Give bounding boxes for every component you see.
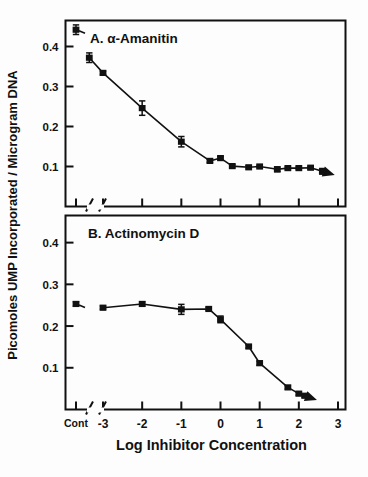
panel-a-data-point [139, 105, 146, 111]
panel-a-series [73, 25, 335, 177]
xtick-label: 3 [335, 417, 342, 431]
dose-response-figure: 0.10.20.30.40.10.20.30.4Cont-3-2-10123Lo… [0, 0, 368, 477]
panel-b-ytick-label: 0.2 [43, 321, 59, 333]
panel-a-data-point [229, 163, 236, 169]
panel-b-data-point [256, 360, 263, 366]
panel-a-frame [66, 21, 346, 207]
panel-b-data-point [100, 305, 107, 311]
xtick-label-cont: Cont [64, 417, 88, 429]
panel-b-data-point [217, 316, 224, 322]
panel-a-ytick-label: 0.2 [43, 121, 59, 133]
xtick-label: -3 [98, 417, 109, 431]
panel-b-ytick-label: 0.3 [43, 279, 59, 291]
panel-a-title: A. α-Amanitin [90, 31, 178, 46]
x-axis-title: Log Inhibitor Concentration [116, 437, 307, 453]
panel-a-data-point [100, 70, 107, 76]
panel-b-data-line [103, 304, 305, 396]
panel-a-control-tail [79, 31, 85, 34]
xtick-label: 1 [256, 417, 263, 431]
panel-a-data-line [89, 58, 322, 172]
panel-b-data-point [301, 393, 308, 399]
panel-a-ytick-label: 0.1 [43, 161, 60, 173]
panel-b-ytick-label: 0.1 [43, 362, 60, 374]
panel-a-control-point [73, 27, 80, 33]
panel-b-series [73, 301, 317, 401]
panel-b-title: B. Actinomycin D [88, 226, 200, 241]
panel-b-data-point [139, 301, 146, 307]
xtick-label: 2 [295, 417, 302, 431]
panel-b-data-point [178, 306, 185, 312]
xtick-label: -2 [137, 417, 148, 431]
panel-b-control-point [73, 301, 80, 307]
xtick-label: -1 [176, 417, 187, 431]
panel-a-data-point [86, 55, 93, 61]
panel-a-data-point [274, 166, 281, 172]
panel-a-data-point [245, 164, 252, 170]
panel-b-frame [66, 216, 346, 410]
xtick-label: 0 [217, 417, 224, 431]
panel-b-control-tail [79, 305, 85, 308]
panel-a-data-point [284, 165, 291, 171]
panel-a-data-point [178, 139, 185, 145]
panel-a-data-point [217, 155, 224, 161]
panel-b-ytick-label: 0.4 [43, 237, 60, 249]
panel-a-axis-break-gap [87, 205, 104, 210]
panel-a-data-point [295, 165, 302, 171]
panel-b-data-point [284, 384, 291, 390]
panel-a-data-point [256, 163, 263, 169]
y-axis-title: Picomoles UMP Incorporated / Microgram D… [5, 70, 20, 360]
figure-root: 0.10.20.30.40.10.20.30.4Cont-3-2-10123Lo… [0, 0, 368, 477]
panel-b-data-point [205, 306, 212, 312]
panel-a-data-point [319, 168, 326, 174]
panel-b-axis-break-gap [87, 408, 104, 413]
panel-a-ytick-label: 0.3 [43, 81, 59, 93]
panel-a-data-point [307, 165, 314, 171]
panel-b-data-point [245, 343, 252, 349]
panel-b-data-point [295, 391, 302, 397]
panel-a-data-point [207, 158, 214, 164]
panel-a-ytick-label: 0.4 [43, 41, 60, 53]
